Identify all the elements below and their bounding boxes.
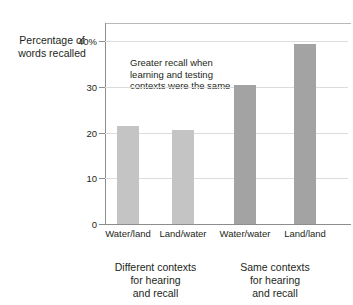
y-tick-label-10: 10 xyxy=(86,173,97,184)
category-label-1: Land/water xyxy=(159,228,206,239)
y-tick-10 xyxy=(99,178,105,179)
y-tick-0 xyxy=(99,224,105,225)
bar-land-land xyxy=(294,44,316,224)
group-caption-1: Same contexts for hearing and recall xyxy=(240,261,309,300)
y-tick-label-40: 40% xyxy=(78,36,97,47)
category-label-2: Water/water xyxy=(220,228,271,239)
y-tick-20 xyxy=(99,133,105,134)
y-tick-30 xyxy=(99,87,105,88)
bar-water-water xyxy=(234,85,256,224)
gridline-40 xyxy=(105,41,348,42)
category-label-3: Land/land xyxy=(284,228,326,239)
plot-area: Greater recall when learning and testing… xyxy=(105,23,348,224)
category-label-0: Water/land xyxy=(105,228,151,239)
bar-chart: Percentage of words recalled Greater rec… xyxy=(0,0,353,305)
x-axis-line xyxy=(105,224,351,225)
y-tick-label-0: 0 xyxy=(92,219,97,230)
bar-land-water xyxy=(172,130,194,224)
group-caption-0: Different contexts for hearing and recal… xyxy=(115,261,197,300)
bar-water-land xyxy=(117,126,139,224)
y-tick-label-30: 30 xyxy=(86,81,97,92)
y-tick-40 xyxy=(99,41,105,42)
y-tick-label-20: 20 xyxy=(86,127,97,138)
